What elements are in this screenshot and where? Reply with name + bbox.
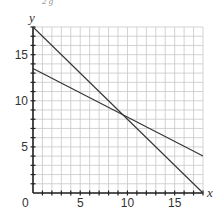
x-tick-label: 5: [77, 196, 84, 210]
chart: 2 g 05101551015 y x: [0, 0, 219, 215]
y-tick-label: 10: [15, 94, 29, 108]
x-tick-label: 0: [22, 196, 29, 210]
x-axis-label: x: [206, 185, 213, 200]
y-tick-label: 5: [21, 140, 28, 154]
y-axis-label: y: [27, 10, 35, 25]
x-tick-label: 10: [121, 196, 135, 210]
x-tick-label: 15: [168, 196, 182, 210]
cropped-top-text: 2 g: [42, 0, 54, 6]
y-tick-label: 15: [15, 48, 29, 62]
